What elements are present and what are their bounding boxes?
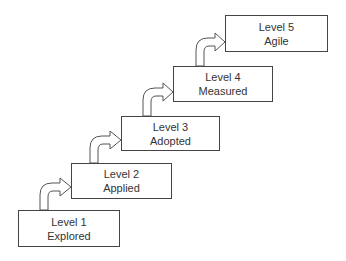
level-1-box: Level 1 Explored [18,210,120,247]
level-3-name: Adopted [150,134,191,148]
level-2-box: Level 2 Applied [71,163,172,199]
level-4-name: Measured [199,84,248,98]
level-1-name: Explored [47,229,90,243]
level-4-label: Level 4 [205,70,240,84]
level-4-box: Level 4 Measured [173,66,273,102]
level-5-name: Agile [264,34,288,48]
arrow-icon-1-2 [40,178,71,210]
level-3-box: Level 3 Adopted [121,116,220,151]
level-5-box: Level 5 Agile [225,15,328,52]
arrow-icon-3-4 [143,83,173,116]
arrow-icon-4-5 [196,33,225,66]
level-2-label: Level 2 [104,167,139,181]
level-1-label: Level 1 [51,215,86,229]
level-5-label: Level 5 [259,20,294,34]
level-3-label: Level 3 [153,120,188,134]
arrow-icon-2-3 [90,131,121,163]
level-2-name: Applied [103,181,140,195]
